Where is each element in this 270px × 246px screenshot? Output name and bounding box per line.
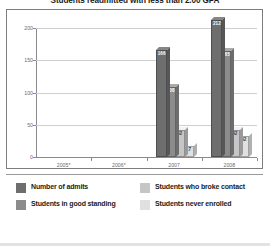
plot-frame: 0501001502002005*2006*200717421081662008… <box>6 9 263 169</box>
legend-items: Number of admitsStudents who broke conta… <box>16 183 260 210</box>
x-tick-mark <box>91 158 92 161</box>
legend-swatch-icon <box>140 183 150 193</box>
y-tick-label: 100 <box>24 90 33 96</box>
bar-side-face <box>240 127 243 157</box>
x-tick-label: 2006* <box>112 162 126 168</box>
bar-side-face <box>176 84 179 157</box>
legend-swatch-icon <box>16 200 26 210</box>
x-tick-label: 2008 <box>224 162 236 168</box>
y-tick-label: 150 <box>24 57 33 63</box>
y-tick-label: 0 <box>30 154 33 160</box>
bar-body <box>211 20 222 157</box>
legend-swatch-icon <box>16 183 26 193</box>
legend-item[interactable]: Number of admits <box>16 183 136 193</box>
bar-side-face <box>167 47 170 157</box>
bar-side-face <box>185 127 188 157</box>
bar-value-label: 166 <box>156 51 167 56</box>
y-tick-mark <box>33 93 36 94</box>
bar-side-face <box>231 48 234 157</box>
bar-side-face <box>194 143 197 157</box>
chart-title: Students readmitted with less than 2.00 … <box>0 0 270 5</box>
legend-item-label: Number of admits <box>31 183 88 192</box>
legend-swatch-icon <box>140 200 150 210</box>
bar-side-face <box>222 17 225 157</box>
chart-root: Students readmitted with less than 2.00 … <box>0 0 270 246</box>
y-tick-mark <box>33 28 36 29</box>
y-tick-mark <box>33 157 36 158</box>
bar-side-face <box>249 133 252 157</box>
x-tick-mark <box>202 158 203 161</box>
x-tick-mark <box>147 158 148 161</box>
legend-item[interactable]: Students in good standing <box>16 200 136 210</box>
legend-item-label: Students never enrolled <box>155 200 231 209</box>
y-tick-mark <box>33 60 36 61</box>
y-tick-label: 50 <box>27 122 33 128</box>
legend-item[interactable]: Students who broke contact <box>140 183 260 193</box>
legend-item[interactable]: Students never enrolled <box>140 200 260 210</box>
legend-item-label: Students in good standing <box>31 200 116 209</box>
bar: 212 <box>211 17 225 157</box>
bar-value-label: 212 <box>211 21 222 26</box>
legend-item-label: Students who broke contact <box>155 183 245 192</box>
y-tick-mark <box>33 125 36 126</box>
x-tick-label: 2007 <box>168 162 180 168</box>
plot-area: 0501001502002005*2006*200717421081662008… <box>36 28 257 158</box>
x-tick-mark <box>257 158 258 161</box>
y-tick-label: 200 <box>24 25 33 31</box>
x-tick-label: 2005* <box>57 162 71 168</box>
bar-body <box>156 50 167 157</box>
chart-legend: Number of admitsStudents who broke conta… <box>6 174 263 240</box>
bar: 166 <box>156 47 170 157</box>
